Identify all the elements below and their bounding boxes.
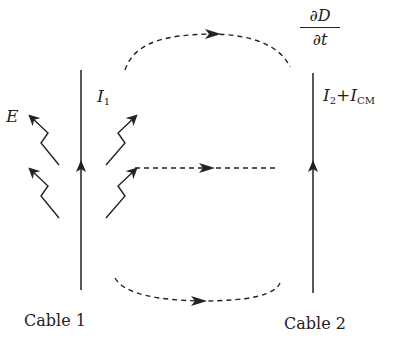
diagram-canvas <box>0 0 398 342</box>
cable-2-label: Cable 2 <box>284 314 346 333</box>
cable-2-wire <box>308 73 318 293</box>
current-label-cable-1: I1 <box>97 86 110 107</box>
cable-1-wire <box>76 70 86 290</box>
displacement-current-label: ∂D ∂t <box>300 6 340 49</box>
displacement-current-paths <box>115 34 290 301</box>
electric-field-label: E <box>6 106 18 126</box>
cable-1-label: Cable 1 <box>24 311 86 330</box>
current-label-cable-2: I2+ICM <box>323 85 375 106</box>
